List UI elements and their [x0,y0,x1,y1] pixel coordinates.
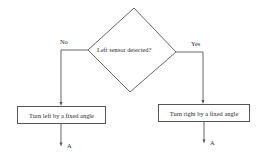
left-exit-arrowhead [60,143,63,147]
yes-branch-label: Yes [191,41,200,47]
yes-branch-line [176,52,203,102]
flowchart-connectors [0,0,265,160]
right-exit-arrowhead [203,140,206,144]
left-connector-a: A [67,143,72,149]
turn-left-process-box: Turn left by a fixed angle [17,106,106,124]
no-branch-line [61,50,88,104]
no-branch-label: No [60,39,68,45]
turn-right-label: Turn right by a fixed angle [170,110,238,117]
decision-label: Left sensor detected? [97,47,151,53]
turn-left-label: Turn left by a fixed angle [29,112,94,119]
turn-right-process-box: Turn right by a fixed angle [158,104,250,122]
right-connector-a: A [210,140,215,146]
